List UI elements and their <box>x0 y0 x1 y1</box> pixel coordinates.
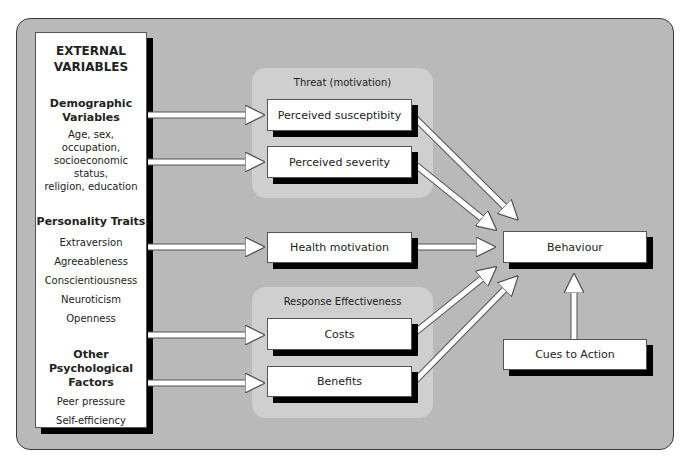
arrow-severity-to-behaviour <box>412 162 490 225</box>
cues-to-action-box: Cues to Action <box>503 339 647 370</box>
perceived-severity-box: Perceived severity <box>267 146 412 178</box>
perceived-susceptibility-box: Perceived susceptibity <box>267 99 412 131</box>
behaviour-box: Behaviour <box>503 231 647 263</box>
costs-box: Costs <box>267 318 412 350</box>
health-motivation-box: Health motivation <box>267 232 412 263</box>
benefits-box: Benefits <box>267 366 412 397</box>
arrow-costs-to-behaviour <box>412 272 490 335</box>
